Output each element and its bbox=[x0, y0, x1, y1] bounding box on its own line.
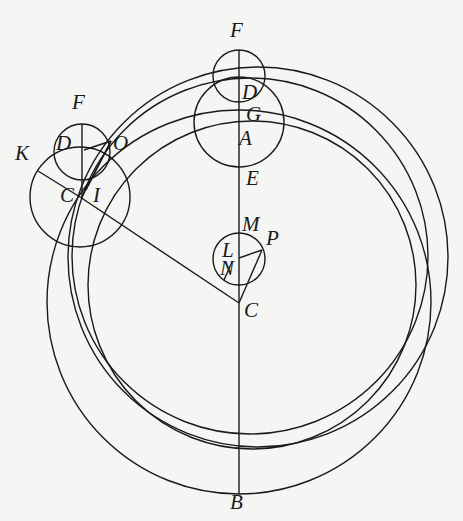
label-A: A bbox=[239, 128, 252, 149]
label-E: E bbox=[246, 168, 259, 189]
label-K: K bbox=[15, 143, 29, 164]
label-I: I bbox=[93, 185, 100, 206]
label-C_center: C bbox=[244, 300, 258, 321]
label-O: O bbox=[113, 133, 128, 154]
label-D_top: D bbox=[242, 82, 257, 103]
label-P: P bbox=[266, 228, 279, 249]
label-D_left: D bbox=[56, 133, 71, 154]
label-N: N bbox=[220, 258, 234, 279]
label-C_left: C bbox=[60, 185, 74, 206]
label-B: B bbox=[230, 492, 243, 513]
label-F_left: F bbox=[72, 92, 85, 113]
diagram-canvas: FDGAEMPLNCBFDOKCI bbox=[0, 0, 463, 521]
label-F_top: F bbox=[230, 20, 243, 41]
label-M: M bbox=[242, 214, 260, 235]
label-G: G bbox=[246, 104, 261, 125]
